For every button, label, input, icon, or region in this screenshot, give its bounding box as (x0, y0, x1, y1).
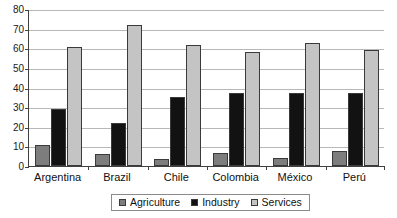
bar-services-perú (364, 50, 379, 166)
bar-agriculture-brazil (95, 154, 110, 166)
bar-group (154, 10, 201, 166)
bar-chart: 01020304050607080 ArgentinaBrazilChileCo… (0, 0, 397, 218)
gridline (29, 147, 384, 148)
bar-services-chile (186, 45, 201, 166)
x-axis-label-chile: Chile (147, 172, 206, 183)
y-axis-tick-label: 40 (0, 84, 24, 94)
bar-industry-chile (170, 97, 185, 166)
y-axis-tick-label: 10 (0, 142, 24, 152)
legend-label: Industry (202, 197, 239, 208)
x-axis-separator (266, 166, 267, 170)
x-axis-label-argentina: Argentina (28, 172, 87, 183)
bar-group (213, 10, 260, 166)
chart-legend: AgricultureIndustryServices (111, 194, 310, 211)
bar-services-méxico (305, 43, 320, 166)
bar-industry-perú (348, 93, 363, 166)
gridline (29, 128, 384, 129)
legend-label: Agriculture (130, 197, 180, 208)
y-axis-tick-label: 60 (0, 44, 24, 54)
x-axis-separator-end (384, 166, 385, 170)
bar-group (95, 10, 142, 166)
y-axis-tick (25, 10, 29, 11)
legend-item-agriculture[interactable]: Agriculture (119, 197, 180, 208)
x-axis-label-colombia: Colombia (206, 172, 265, 183)
bar-services-argentina (67, 47, 82, 166)
bar-industry-méxico (289, 93, 304, 166)
gridline (29, 89, 384, 90)
plot-area (28, 10, 384, 167)
x-axis-label-méxico: México (265, 172, 324, 183)
y-axis-tick (25, 108, 29, 109)
y-axis-tick-label: 70 (0, 25, 24, 35)
y-axis-tick (25, 69, 29, 70)
x-axis-separator (207, 166, 208, 170)
bar-services-brazil (127, 25, 142, 166)
y-axis-tick (25, 167, 29, 168)
y-axis-tick (25, 89, 29, 90)
bar-group (35, 10, 82, 166)
gridline (29, 10, 384, 11)
bar-group (273, 10, 320, 166)
bar-industry-colombia (229, 93, 244, 166)
y-axis-tick (25, 147, 29, 148)
x-axis-label-brazil: Brazil (87, 172, 146, 183)
gridline (29, 69, 384, 70)
bar-services-colombia (245, 52, 260, 166)
y-axis-tick (25, 49, 29, 50)
bar-agriculture-chile (154, 159, 169, 166)
bar-agriculture-argentina (35, 145, 50, 166)
y-axis-tick (25, 30, 29, 31)
gridline (29, 49, 384, 50)
legend-swatch-icon (191, 199, 198, 206)
x-axis-label-perú: Perú (325, 172, 384, 183)
bar-agriculture-perú (332, 151, 347, 166)
bar-industry-brazil (111, 123, 126, 166)
y-axis-tick-label: 0 (0, 162, 24, 172)
legend-item-industry[interactable]: Industry (191, 197, 239, 208)
legend-label: Services (262, 197, 302, 208)
x-axis-separator (88, 166, 89, 170)
y-axis-tick-label: 50 (0, 64, 24, 74)
bar-agriculture-colombia (213, 153, 228, 166)
bar-industry-argentina (51, 109, 66, 166)
bar-agriculture-méxico (273, 158, 288, 166)
x-axis-separator (326, 166, 327, 170)
legend-swatch-icon (251, 199, 258, 206)
y-axis-tick-label: 20 (0, 123, 24, 133)
y-axis-tick-label: 30 (0, 103, 24, 113)
gridline (29, 108, 384, 109)
y-axis-tick-label: 80 (0, 5, 24, 15)
legend-swatch-icon (119, 199, 126, 206)
y-axis-tick (25, 128, 29, 129)
gridline (29, 30, 384, 31)
legend-item-services[interactable]: Services (251, 197, 302, 208)
bar-group (332, 10, 379, 166)
x-axis-separator (148, 166, 149, 170)
